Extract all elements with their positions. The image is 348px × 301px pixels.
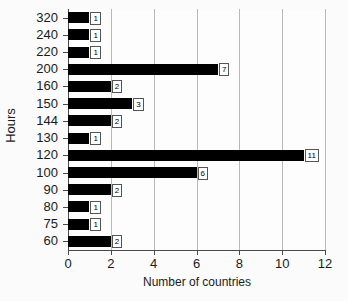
bar <box>68 47 89 58</box>
x-axis-tick <box>325 250 326 255</box>
bar <box>68 64 218 75</box>
x-axis-tick-label: 6 <box>177 256 217 271</box>
bar-value-label: 2 <box>112 184 122 197</box>
y-axis-tick-label: 60 <box>12 233 58 248</box>
bar <box>68 201 89 212</box>
bar-value-label: 11 <box>305 149 319 162</box>
x-axis-tick-label: 12 <box>305 256 345 271</box>
y-axis-tick <box>63 224 68 225</box>
x-axis-title: Number of countries <box>68 275 326 289</box>
x-axis-tick-label: 0 <box>48 256 88 271</box>
bar-value-label: 1 <box>90 201 100 214</box>
y-axis-tick <box>63 190 68 191</box>
bar-value-label: 3 <box>133 98 143 111</box>
y-axis-tick-label: 80 <box>12 199 58 214</box>
y-axis-tick <box>63 35 68 36</box>
x-gridline <box>111 9 112 250</box>
x-axis-tick <box>239 250 240 255</box>
bar-chart-figure: Hours Number of countries 02468101232012… <box>0 0 348 301</box>
bar <box>68 12 89 23</box>
bar-value-label: 1 <box>90 29 100 42</box>
x-axis-tick-label: 4 <box>134 256 174 271</box>
bar-value-label: 2 <box>112 235 122 248</box>
y-axis-tick <box>63 241 68 242</box>
y-axis-tick <box>63 104 68 105</box>
bar <box>68 81 111 92</box>
y-axis-tick-label: 90 <box>12 182 58 197</box>
y-axis-tick-label: 75 <box>12 216 58 231</box>
y-axis-tick-label: 240 <box>12 27 58 42</box>
x-gridline <box>154 9 155 250</box>
y-axis-tick <box>63 69 68 70</box>
bar-value-label: 1 <box>90 12 100 25</box>
y-axis-tick <box>63 173 68 174</box>
y-axis-tick-label: 150 <box>12 96 58 111</box>
y-axis-tick-label: 220 <box>12 44 58 59</box>
bar <box>68 98 132 109</box>
bar-value-label: 1 <box>90 132 100 145</box>
y-axis-tick <box>63 207 68 208</box>
bar-value-label: 7 <box>219 63 229 76</box>
plot-area <box>68 9 325 250</box>
y-axis-tick <box>63 121 68 122</box>
x-gridline <box>239 9 240 250</box>
bar-value-label: 2 <box>112 80 122 93</box>
bar <box>68 133 89 144</box>
bar-value-label: 2 <box>112 115 122 128</box>
bar-value-label: 1 <box>90 46 100 59</box>
y-axis-tick-label: 100 <box>12 165 58 180</box>
bar <box>68 29 89 40</box>
bar <box>68 150 304 161</box>
y-axis-tick <box>63 18 68 19</box>
y-axis-tick-label: 160 <box>12 78 58 93</box>
y-axis-tick <box>63 52 68 53</box>
x-gridline <box>68 9 69 250</box>
bar <box>68 115 111 126</box>
y-axis-tick-label: 144 <box>12 113 58 128</box>
x-axis-tick <box>154 250 155 255</box>
y-axis-tick-label: 130 <box>12 130 58 145</box>
y-axis-tick-label: 320 <box>12 10 58 25</box>
bar <box>68 184 111 195</box>
x-axis-tick <box>68 250 69 255</box>
x-gridline <box>325 9 326 250</box>
y-axis-tick <box>63 86 68 87</box>
y-axis-tick <box>63 138 68 139</box>
bar <box>68 167 197 178</box>
x-axis-tick <box>282 250 283 255</box>
x-axis-tick <box>197 250 198 255</box>
x-axis-tick-label: 2 <box>91 256 131 271</box>
bar <box>68 219 89 230</box>
x-gridline <box>197 9 198 250</box>
x-axis-tick-label: 8 <box>219 256 259 271</box>
y-axis-tick <box>63 155 68 156</box>
x-axis-tick-label: 10 <box>262 256 302 271</box>
bar-value-label: 6 <box>198 167 208 180</box>
bar <box>68 236 111 247</box>
x-axis-tick <box>111 250 112 255</box>
y-axis-tick-label: 200 <box>12 61 58 76</box>
x-gridline <box>282 9 283 250</box>
bar-value-label: 1 <box>90 218 100 231</box>
y-axis-tick-label: 120 <box>12 147 58 162</box>
